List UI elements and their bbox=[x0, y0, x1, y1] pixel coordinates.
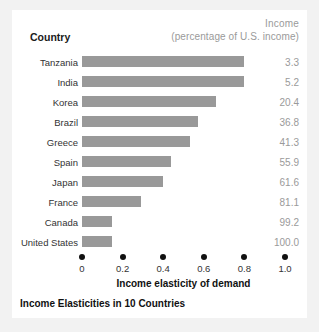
axis-tick-label: 1.0 bbox=[270, 263, 300, 274]
country-label: Japan bbox=[12, 177, 78, 188]
bar-track bbox=[82, 236, 285, 247]
bar-row: Brazil36.8 bbox=[12, 114, 307, 134]
country-label: Tanzania bbox=[12, 57, 78, 68]
country-label: Spain bbox=[12, 157, 78, 168]
axis-tick-label: 0.8 bbox=[229, 263, 259, 274]
axis-tick-label: 0 bbox=[67, 263, 97, 274]
country-label: Korea bbox=[12, 97, 78, 108]
chart-header: Income (percentage of U.S. income) Count… bbox=[12, 18, 307, 54]
bar bbox=[82, 196, 141, 207]
axis-tick-label: 0.2 bbox=[108, 263, 138, 274]
income-value: 99.2 bbox=[280, 217, 299, 228]
x-axis-title: Income elasticity of demand bbox=[82, 278, 285, 289]
axis-tick-dot bbox=[120, 254, 126, 260]
bar bbox=[82, 176, 163, 187]
axis-tick-dot bbox=[282, 254, 288, 260]
income-value: 3.3 bbox=[285, 57, 299, 68]
country-label: France bbox=[12, 197, 78, 208]
bar bbox=[82, 136, 190, 147]
bar bbox=[82, 56, 244, 67]
bar-track bbox=[82, 196, 285, 207]
bar-track bbox=[82, 136, 285, 147]
axis-tick-dot bbox=[201, 254, 207, 260]
bar-row: France81.1 bbox=[12, 194, 307, 214]
divider bbox=[20, 293, 299, 294]
bar-row: United States100.0 bbox=[12, 234, 307, 254]
figure-caption: Income Elasticities in 10 Countries bbox=[20, 298, 185, 309]
bar bbox=[82, 156, 171, 167]
income-value: 100.0 bbox=[274, 237, 299, 248]
bar-track bbox=[82, 76, 285, 87]
axis-tick-dot bbox=[160, 254, 166, 260]
axis-tick-dot bbox=[241, 254, 247, 260]
income-value: 36.8 bbox=[280, 117, 299, 128]
bar bbox=[82, 236, 112, 247]
bar bbox=[82, 76, 244, 87]
income-column-header: Income bbox=[265, 18, 299, 29]
bar-rows: Tanzania3.3India5.2Korea20.4Brazil36.8Gr… bbox=[12, 54, 307, 254]
chart-panel: Income (percentage of U.S. income) Count… bbox=[12, 10, 307, 318]
income-column-subheader: (percentage of U.S. income) bbox=[171, 31, 299, 42]
bar-track bbox=[82, 116, 285, 127]
bar bbox=[82, 216, 112, 227]
country-label: United States bbox=[12, 237, 78, 248]
income-value: 20.4 bbox=[280, 97, 299, 108]
bar-row: India5.2 bbox=[12, 74, 307, 94]
figure-root: Income (percentage of U.S. income) Count… bbox=[0, 0, 319, 332]
bar-row: Korea20.4 bbox=[12, 94, 307, 114]
axis-tick-label: 0.6 bbox=[189, 263, 219, 274]
income-value: 41.3 bbox=[280, 137, 299, 148]
bar-track bbox=[82, 216, 285, 227]
income-value: 5.2 bbox=[285, 77, 299, 88]
bar-row: Tanzania3.3 bbox=[12, 54, 307, 74]
bar-track bbox=[82, 56, 285, 67]
bar-row: Greece41.3 bbox=[12, 134, 307, 154]
bar-track bbox=[82, 156, 285, 167]
bar-track bbox=[82, 96, 285, 107]
bar-row: Japan61.6 bbox=[12, 174, 307, 194]
axis-tick-dot bbox=[79, 254, 85, 260]
country-label: Canada bbox=[12, 217, 78, 228]
axis-tick-label: 0.4 bbox=[148, 263, 178, 274]
bar-row: Spain55.9 bbox=[12, 154, 307, 174]
bar-row: Canada99.2 bbox=[12, 214, 307, 234]
income-value: 55.9 bbox=[280, 157, 299, 168]
country-column-header: Country bbox=[30, 31, 70, 43]
country-label: Brazil bbox=[12, 117, 78, 128]
bar bbox=[82, 116, 198, 127]
country-label: India bbox=[12, 77, 78, 88]
country-label: Greece bbox=[12, 137, 78, 148]
income-value: 61.6 bbox=[280, 177, 299, 188]
bar bbox=[82, 96, 216, 107]
income-value: 81.1 bbox=[280, 197, 299, 208]
bar-track bbox=[82, 176, 285, 187]
